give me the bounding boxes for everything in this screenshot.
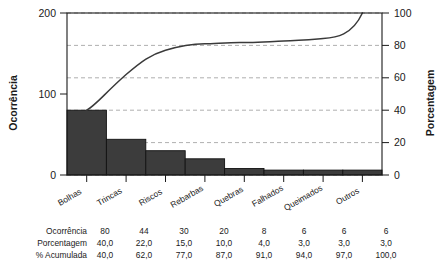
y-tick-200: 200 <box>38 7 56 19</box>
table-cell: 30 <box>179 226 189 236</box>
bar-queimados <box>303 170 342 175</box>
bar-riscos <box>146 151 185 175</box>
table-cell: 100,0 <box>376 250 397 260</box>
y-axis-left: 0 100 200 Ocorrência <box>7 7 67 181</box>
table-cell: 3,0 <box>338 238 350 248</box>
bar-rebarbas <box>185 159 224 175</box>
y-axis-right: 0 20 40 60 80 100 Porcentagem <box>382 7 436 181</box>
y-tick-100: 100 <box>38 88 56 100</box>
table-cell: 44 <box>139 226 149 236</box>
y2-tick-0: 0 <box>394 169 400 181</box>
data-table: Ocorrência 80 44 30 20 8 6 6 6 Porcentag… <box>36 226 397 260</box>
table-cell: 22,0 <box>136 238 153 248</box>
table-row-label: Porcentagem <box>37 238 87 248</box>
y2-tick-20: 20 <box>394 136 406 148</box>
cat-label-queimados: Queimados <box>282 183 324 213</box>
table-cell: 40,0 <box>97 238 114 248</box>
cat-label-bolhas: Bolhas <box>56 186 83 207</box>
bar-quebras <box>225 169 264 176</box>
cat-label-quebras: Quebras <box>212 184 245 209</box>
pareto-chart-svg: 0 100 200 Ocorrência 0 20 40 60 80 100 P… <box>0 0 448 275</box>
table-cell: 4,0 <box>258 238 270 248</box>
bar-bolhas <box>67 110 106 175</box>
table-cell: 91,0 <box>256 250 273 260</box>
y-axis-label: Ocorrência <box>7 75 19 131</box>
cat-label-falhados: Falhados <box>250 183 285 209</box>
table-cell: 15,0 <box>176 238 193 248</box>
y2-tick-80: 80 <box>394 39 406 51</box>
cat-label-outros: Outros <box>334 186 361 207</box>
table-cell: 20 <box>219 226 229 236</box>
cat-label-rebarbas: Rebarbas <box>169 183 205 210</box>
cat-label-trincas: Trincas <box>95 185 124 207</box>
y2-tick-100: 100 <box>394 7 412 19</box>
table-row-label: % Acumulada <box>36 250 88 260</box>
pareto-chart: 0 100 200 Ocorrência 0 20 40 60 80 100 P… <box>0 0 448 275</box>
table-cell: 97,0 <box>336 250 353 260</box>
table-cell: 8 <box>262 226 267 236</box>
bar-falhados <box>264 170 303 175</box>
table-row: Ocorrência 80 44 30 20 8 6 6 6 <box>46 226 389 236</box>
table-row: % Acumulada 40,0 62,0 77,0 87,0 91,0 94,… <box>36 250 397 260</box>
x-axis-ticks <box>87 175 363 182</box>
y2-tick-40: 40 <box>394 104 406 116</box>
y2-tick-60: 60 <box>394 71 406 83</box>
table-row-label: Ocorrência <box>46 226 87 236</box>
table-cell: 3,0 <box>380 238 392 248</box>
table-cell: 87,0 <box>216 250 233 260</box>
table-cell: 6 <box>384 226 389 236</box>
y-tick-0: 0 <box>50 169 56 181</box>
cumulative-line <box>87 13 363 110</box>
table-cell: 6 <box>302 226 307 236</box>
table-cell: 77,0 <box>176 250 193 260</box>
table-row: Porcentagem 40,0 22,0 15,0 10,0 4,0 3,0 … <box>37 238 392 248</box>
table-cell: 94,0 <box>296 250 313 260</box>
table-cell: 80 <box>100 226 110 236</box>
table-cell: 62,0 <box>136 250 153 260</box>
cat-label-riscos: Riscos <box>137 187 164 208</box>
table-cell: 6 <box>342 226 347 236</box>
bar-trincas <box>106 139 145 175</box>
table-cell: 3,0 <box>298 238 310 248</box>
table-cell: 40,0 <box>97 250 114 260</box>
y2-axis-label: Porcentagem <box>424 70 436 137</box>
table-cell: 10,0 <box>216 238 233 248</box>
x-axis-category-labels: Bolhas Trincas Riscos Rebarbas Quebras F… <box>56 183 361 213</box>
bar-outros <box>343 170 382 175</box>
